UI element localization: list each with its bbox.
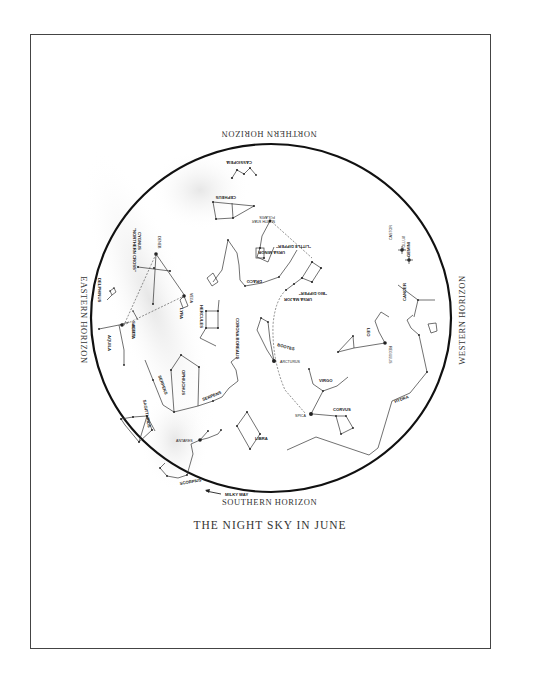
svg-text:GEMINI: GEMINI <box>406 242 411 257</box>
constellation-ursa-major: URSA MAJOR "BIG DIPPER" <box>284 261 327 302</box>
svg-text:CASSIOPEIA: CASSIOPEIA <box>226 160 252 165</box>
constellation-corvus: CORVUS <box>313 407 354 435</box>
svg-text:CORVUS: CORVUS <box>333 407 351 412</box>
constellation-libra: LIBRA <box>236 411 268 450</box>
constellation-cancer: CANCER <box>398 283 435 317</box>
svg-text:DELPHINUS: DELPHINUS <box>97 278 102 302</box>
svg-text:CEPHEUS: CEPHEUS <box>216 195 236 200</box>
svg-text:DENEB: DENEB <box>157 236 161 249</box>
svg-text:LEO: LEO <box>366 328 371 337</box>
svg-text:CANCER: CANCER <box>402 283 407 301</box>
eastern-horizon-label: EASTERN HORIZON <box>79 276 89 364</box>
svg-text:HERCULES: HERCULES <box>199 305 204 328</box>
svg-text:SPICA: SPICA <box>295 414 306 418</box>
constellation-leo: LEO REGULUS <box>337 312 392 364</box>
svg-text:"NORTHERN CROSS": "NORTHERN CROSS" <box>132 228 137 272</box>
svg-text:ALTAIR: ALTAIR <box>131 325 135 337</box>
constellation-bootes: BOOTES ARCTURUS <box>257 317 301 364</box>
svg-text:DRACO: DRACO <box>246 279 262 284</box>
svg-text:ARCTURUS: ARCTURUS <box>280 360 301 364</box>
svg-text:OPHIUCHUS: OPHIUCHUS <box>181 370 186 395</box>
svg-text:BOOTES: BOOTES <box>277 342 296 351</box>
constellation-gemini: CASTOR POLLUX GEMINI <box>389 225 413 264</box>
svg-text:URSA MINOR: URSA MINOR <box>258 250 285 255</box>
svg-text:ANTARES: ANTARES <box>176 439 193 443</box>
constellation-ursa-minor: POLARIS NORTH STAR URSA MINOR "LITTLE DI… <box>252 215 311 262</box>
arc-to-arcturus-line <box>273 290 305 413</box>
svg-text:LIBRA: LIBRA <box>255 436 268 441</box>
svg-text:"LITTLE DIPPER": "LITTLE DIPPER" <box>276 244 311 249</box>
constellation-hydra: HYDRA <box>287 315 437 455</box>
svg-text:VEGA: VEGA <box>189 293 193 304</box>
svg-text:POLARIS: POLARIS <box>259 215 275 219</box>
svg-text:VIRGO: VIRGO <box>319 378 333 383</box>
southern-horizon-label: SOUTHERN HORIZON <box>222 497 317 507</box>
svg-text:CASTOR: CASTOR <box>389 225 393 240</box>
svg-text:HYDRA: HYDRA <box>394 394 410 404</box>
svg-text:"BIG DIPPER": "BIG DIPPER" <box>299 291 327 296</box>
western-horizon-label: WESTERN HORIZON <box>457 275 467 365</box>
chart-title: THE NIGHT SKY IN JUNE <box>0 519 540 531</box>
svg-text:AQUILA: AQUILA <box>107 335 112 351</box>
northern-horizon-label: NORTHERN HORIZON <box>221 129 317 139</box>
constellation-corona-borealis: CORONA BOREALIS <box>235 318 240 359</box>
svg-text:REGULUS: REGULUS <box>388 346 392 364</box>
svg-text:CORONA BOREALIS: CORONA BOREALIS <box>235 318 240 359</box>
svg-text:LYRA: LYRA <box>179 308 184 319</box>
svg-text:NORTH STAR: NORTH STAR <box>252 219 275 223</box>
constellation-hercules: HERCULES <box>199 300 219 346</box>
svg-text:URSA MAJOR: URSA MAJOR <box>284 297 312 302</box>
